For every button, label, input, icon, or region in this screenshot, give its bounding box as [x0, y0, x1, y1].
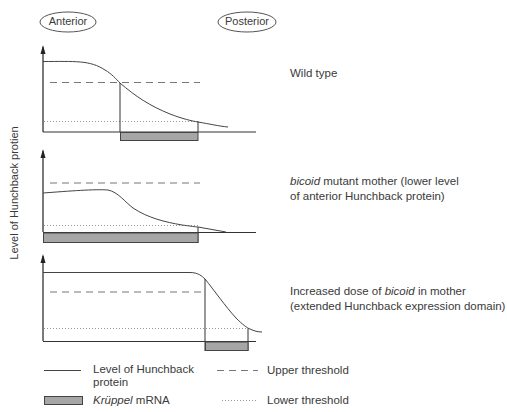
kruppel-bar	[44, 233, 199, 243]
hunchback-curve	[43, 61, 228, 127]
y-axis-label: Level of Hunchback protien	[8, 123, 20, 263]
caption-increased-bicoid: Increased dose of bicoid in mother (exte…	[290, 284, 505, 314]
hunchback-curve	[43, 273, 262, 333]
posterior-label: Posterior	[218, 15, 276, 27]
y-axis-arrow-icon	[41, 254, 46, 263]
panel-wild-type	[41, 45, 257, 141]
legend-hunchback-label-line1: Level of Hunchback	[93, 363, 194, 376]
legend-kruppel-swatch-icon	[45, 397, 83, 405]
legend-upper-threshold-label: Upper threshold	[267, 363, 349, 378]
panel-bicoid-mutant	[41, 149, 257, 243]
caption-increased-pre: Increased dose of	[290, 285, 385, 297]
legend-kruppel-label: Krüppel mRNA	[93, 393, 170, 408]
caption-bicoid-rest: mutant mother (lower level	[320, 175, 459, 187]
y-axis-arrow-icon	[41, 149, 46, 158]
caption-wild-type-line1: Wild type	[290, 67, 337, 79]
panel-increased-bicoid	[41, 254, 263, 351]
y-axis-arrow-icon	[41, 45, 46, 54]
legend-hunchback-label: Level of Hunchback protein	[93, 363, 194, 389]
caption-bicoid-line2: of anterior Hunchback protein)	[290, 189, 459, 204]
caption-increased-post: in mother	[415, 285, 466, 297]
caption-wild-type: Wild type	[290, 66, 337, 81]
caption-bicoid-mutant: bicoid mutant mother (lower level of ant…	[290, 174, 459, 204]
caption-bicoid-italic: bicoid	[290, 175, 320, 187]
kruppel-bar	[206, 342, 249, 351]
anterior-label: Anterior	[40, 15, 96, 27]
kruppel-bar	[121, 133, 199, 141]
caption-increased-italic: bicoid	[385, 285, 415, 297]
legend-kruppel-rest: mRNA	[133, 394, 170, 406]
legend-kruppel-italic: Krüppel	[93, 394, 133, 406]
legend-hunchback-label-line2: protein	[93, 376, 194, 389]
legend-lower-threshold-label: Lower threshold	[267, 393, 349, 408]
hunchback-diagram	[0, 0, 507, 412]
caption-increased-line2: (extended Hunchback expression domain)	[290, 299, 505, 314]
